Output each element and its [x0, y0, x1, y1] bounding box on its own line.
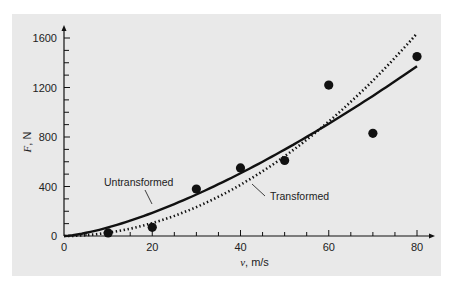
data-point [280, 156, 289, 165]
data-point [104, 228, 113, 237]
y-tick-label: 0 [51, 230, 57, 242]
transformed-leader-line [252, 184, 265, 196]
chart-svg: 020406080040080012001600v, m/sF, NUntran… [0, 0, 452, 288]
y-tick-label: 800 [39, 131, 57, 143]
x-axis-arrow-icon [429, 234, 435, 239]
data-point [412, 52, 421, 61]
data-point [148, 223, 157, 232]
untransformed-label: Untransformed [104, 176, 174, 188]
y-axis-arrow-icon [62, 25, 67, 31]
y-tick-label: 1600 [33, 32, 57, 44]
data-point [236, 163, 245, 172]
untransformed-leader-line [145, 190, 152, 204]
data-point [324, 80, 333, 89]
untransformed-fit-line [64, 66, 417, 236]
y-tick-label: 1200 [33, 82, 57, 94]
x-axis-title: v, m/s [240, 256, 269, 268]
x-tick-label: 40 [234, 241, 246, 253]
x-tick-label: 20 [146, 241, 158, 253]
x-tick-label: 0 [61, 241, 67, 253]
x-tick-label: 80 [411, 241, 423, 253]
y-axis-title: F, N [21, 132, 33, 154]
transformed-label: Transformed [270, 190, 329, 202]
data-point [368, 129, 377, 138]
data-point [192, 184, 201, 193]
y-tick-label: 400 [39, 181, 57, 193]
transformed-fit-line [64, 33, 417, 236]
x-tick-label: 60 [323, 241, 335, 253]
